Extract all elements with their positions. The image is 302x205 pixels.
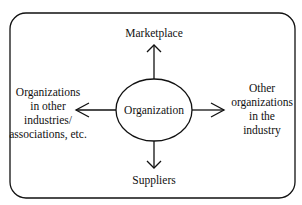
svg-text:organizations: organizations [231, 96, 293, 109]
svg-text:in other: in other [30, 100, 66, 112]
diagram-canvas: Organization Marketplace Suppliers Organ… [0, 0, 302, 205]
suppliers-label: Suppliers [132, 174, 176, 187]
organization-label: Organization [124, 104, 184, 117]
svg-text:Other: Other [249, 82, 275, 94]
arrow-to-other-industries [76, 103, 116, 117]
arrow-to-industry-organizations [192, 103, 224, 117]
arrow-to-suppliers [147, 141, 161, 168]
svg-text:associations, etc.: associations, etc. [9, 128, 87, 141]
svg-text:industry: industry [243, 124, 281, 137]
marketplace-label: Marketplace [125, 27, 182, 40]
industry-organizations-label: Other organizations in the industry [231, 82, 293, 137]
other-industries-label: Organizations in other industries/ assoc… [9, 86, 87, 141]
arrow-to-marketplace [147, 45, 161, 79]
svg-text:industries/: industries/ [24, 114, 73, 126]
svg-text:in the: in the [249, 110, 275, 122]
svg-text:Organizations: Organizations [16, 86, 81, 99]
